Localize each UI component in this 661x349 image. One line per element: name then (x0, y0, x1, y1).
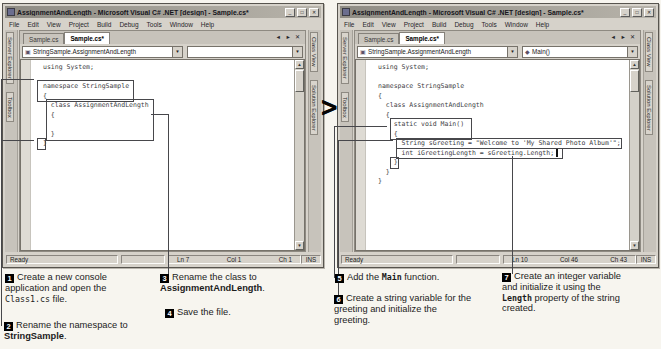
menu-bar: FileEditViewProjectBuildDebugToolsWindow… (344, 19, 654, 29)
code-editor[interactable]: using System;namespace StringSample{ cla… (355, 59, 640, 251)
app-icon (7, 8, 15, 16)
menu-item[interactable]: File (344, 21, 354, 28)
callout-line (512, 156, 513, 274)
step-4: 4Save the file. (165, 307, 285, 318)
maximize-icon[interactable]: □ (632, 8, 642, 17)
menu-item[interactable]: Tools (482, 21, 497, 28)
chevron-down-icon[interactable]: ▼ (507, 47, 517, 57)
menu-item[interactable]: Window (170, 21, 193, 28)
titlebar[interactable]: AssignmentAndLength - Microsoft Visual C… (340, 6, 656, 18)
dock-tab[interactable]: Server Explorer (341, 32, 349, 84)
callout-line (1, 79, 2, 326)
chevron-down-icon[interactable]: ▼ (627, 47, 637, 57)
callout-line (334, 126, 387, 127)
maximize-icon[interactable]: □ (297, 8, 307, 17)
right-dock-strip: Class ViewSolution Explorer (308, 30, 321, 252)
step-number-badge: 1 (5, 274, 14, 283)
menu-item[interactable]: Debug (454, 21, 473, 28)
menu-item[interactable]: File (9, 21, 19, 28)
minimize-icon[interactable]: _ (285, 8, 295, 17)
dock-tab[interactable]: Server Explorer (6, 32, 14, 84)
code-line[interactable]: using System; (356, 63, 629, 73)
close-icon[interactable]: ✕ (309, 8, 319, 17)
code-line[interactable]: } (356, 168, 629, 178)
vertical-scrollbar[interactable]: ▲ ▼ (294, 60, 304, 250)
class-icon: ▣ (360, 49, 366, 55)
code-line[interactable]: namespace StringSample (356, 82, 629, 92)
text-cursor (556, 149, 558, 157)
types-dropdown[interactable]: ▣ StringSample.AssignmentAndLength ▼ (357, 46, 518, 58)
dock-tab[interactable]: Toolbox (6, 92, 14, 123)
code-line[interactable]: { (356, 92, 629, 102)
dock-tab[interactable]: Solution Explorer (645, 80, 653, 136)
status-bar: Ready Ln 10 Col 46 Ch 43 INS (340, 254, 656, 265)
step-text-run: Add the (347, 272, 382, 282)
menu-item[interactable]: Debug (119, 21, 138, 28)
scroll-down-icon[interactable]: ▼ (295, 241, 304, 250)
app-icon (342, 8, 350, 16)
tab-sample-cs[interactable]: Sample.cs (358, 33, 399, 44)
scroll-down-icon[interactable]: ▼ (630, 241, 639, 250)
status-insert-mode: INS (301, 255, 321, 264)
step-text-run: . (64, 331, 67, 341)
vertical-scrollbar[interactable]: ▲ ▼ (629, 60, 639, 250)
menu-item[interactable]: Project (404, 21, 424, 28)
menu-item[interactable]: View (382, 21, 396, 28)
menu-item[interactable]: View (47, 21, 61, 28)
code-editor[interactable]: using System;namespace StringSample{ cla… (20, 59, 305, 251)
step-6: 6Create a string variable for the greeti… (334, 293, 474, 325)
tab-sample-cs[interactable]: Sample.cs (23, 33, 64, 44)
menu-item[interactable]: Edit (27, 21, 38, 28)
callout-line (168, 114, 169, 277)
titlebar[interactable]: AssignmentAndLength - Microsoft Visual C… (5, 6, 321, 18)
code-line[interactable]: using System; (21, 63, 294, 73)
step-text-run: Main (382, 272, 402, 282)
dock-tab[interactable]: Solution Explorer (310, 80, 318, 136)
members-dropdown-value: Main() (532, 48, 550, 55)
code-line[interactable]: } (356, 177, 629, 187)
status-insert-mode: INS (636, 255, 656, 264)
minimize-icon[interactable]: _ (620, 8, 630, 17)
menu-item[interactable]: Window (505, 21, 528, 28)
window-title: AssignmentAndLength - Microsoft Visual C… (352, 9, 618, 16)
menu-item[interactable]: Edit (362, 21, 373, 28)
dock-tab[interactable]: Class View (645, 32, 653, 72)
menu-item[interactable]: Build (97, 21, 111, 28)
ide-window-after: AssignmentAndLength - Microsoft Visual C… (337, 3, 659, 268)
dock-tab[interactable]: Class View (310, 32, 318, 72)
callout-box-class (46, 99, 154, 141)
types-dropdown[interactable]: ▣ StringSample.AssignmentAndLength ▼ (22, 46, 183, 58)
status-ready: Ready (341, 255, 453, 264)
step-1: 1Create a new console application and op… (5, 272, 135, 304)
tab-scroll-close-icons[interactable]: ◄ ► ✕ (611, 34, 637, 40)
scroll-up-icon[interactable]: ▲ (295, 60, 304, 69)
close-icon[interactable]: ✕ (644, 8, 654, 17)
scroll-up-icon[interactable]: ▲ (630, 60, 639, 69)
tab-scroll-close-icons[interactable]: ◄ ► ✕ (276, 34, 302, 40)
tab-sample-cs-active[interactable]: Sample.cs* (399, 32, 445, 44)
dock-tab[interactable]: Toolbox (341, 92, 349, 123)
code-line[interactable]: class AssignmentAndLength (356, 101, 629, 111)
menu-bar: FileEditViewProjectBuildDebugToolsWindow… (9, 19, 319, 29)
step-text-run: Length (502, 293, 532, 303)
window-title: AssignmentAndLength - Microsoft Visual C… (17, 9, 283, 16)
chevron-down-icon[interactable]: ▼ (172, 47, 182, 57)
scrollbar-thumb[interactable] (295, 70, 304, 92)
navigation-bar: ▣ StringSample.AssignmentAndLength ▼ ◆ M… (355, 44, 640, 59)
step-number-badge: 4 (165, 309, 174, 318)
members-dropdown[interactable]: ▼ (187, 46, 303, 58)
menu-item[interactable]: Build (432, 21, 446, 28)
status-line: Ln 7 (177, 256, 189, 263)
menu-item[interactable]: Tools (147, 21, 162, 28)
class-icon: ▣ (25, 49, 31, 55)
tab-sample-cs-active[interactable]: Sample.cs* (64, 32, 110, 44)
right-dock-strip: Class ViewSolution Explorer (643, 30, 656, 252)
members-dropdown[interactable]: ◆ Main() ▼ (522, 46, 638, 58)
scrollbar-thumb[interactable] (630, 70, 639, 92)
chevron-down-icon[interactable]: ▼ (292, 47, 302, 57)
menu-item[interactable]: Help (536, 21, 549, 28)
step-5: 5Add the Main function. (335, 272, 505, 283)
menu-item[interactable]: Help (201, 21, 214, 28)
menu-item[interactable]: Project (69, 21, 89, 28)
code-line[interactable] (356, 73, 629, 83)
